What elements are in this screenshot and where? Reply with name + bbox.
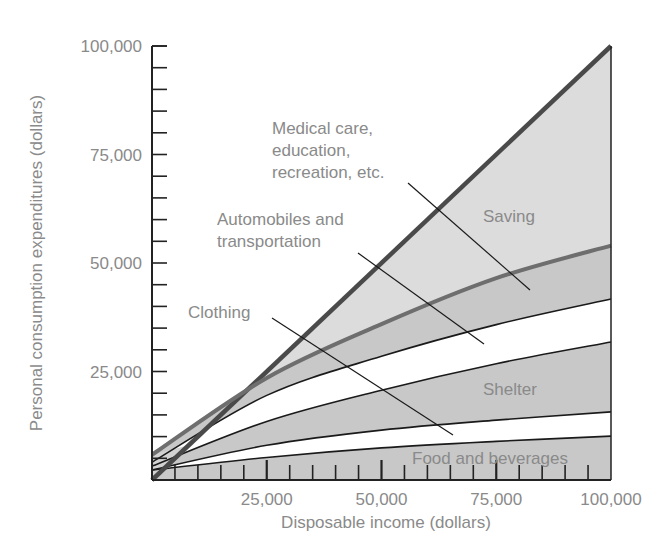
annotation-automobiles-and-transportation: Automobiles andtransportation [217, 210, 344, 251]
x-axis-title: Disposable income (dollars) [281, 513, 491, 532]
y-tick-label: 75,000 [90, 146, 142, 165]
consumption-function-chart: 25,00050,00075,000100,00025,00050,00075,… [0, 0, 669, 555]
annotation-clothing: Clothing [188, 303, 250, 322]
x-tick-label: 50,000 [356, 490, 408, 509]
y-tick-label: 25,000 [90, 363, 142, 382]
x-tick-label: 75,000 [470, 490, 522, 509]
annotation-saving: Saving [483, 207, 535, 226]
y-axis-title: Personal consumption expenditures (dolla… [27, 95, 46, 431]
x-tick-label: 25,000 [241, 490, 293, 509]
annotation-medical-care-education-recreation-etc: Medical care,education,recreation, etc. [272, 119, 384, 182]
y-tick-label: 100,000 [81, 37, 142, 56]
x-tick-label: 100,000 [580, 490, 641, 509]
annotation-food-and-beverages: Food and beverages [412, 449, 568, 468]
y-tick-label: 50,000 [90, 254, 142, 273]
annotation-shelter: Shelter [483, 380, 537, 399]
